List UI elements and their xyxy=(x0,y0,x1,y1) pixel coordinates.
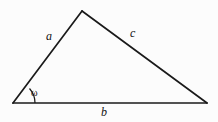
side-c-label: c xyxy=(130,27,135,39)
triangle-figure: a c b ω xyxy=(0,0,218,122)
side-b-label: b xyxy=(101,106,107,118)
angle-omega-label: ω xyxy=(31,88,38,98)
triangle-drawing xyxy=(0,0,218,122)
side-a-line xyxy=(13,11,82,103)
side-c-line xyxy=(82,11,207,103)
side-a-label: a xyxy=(46,30,52,42)
